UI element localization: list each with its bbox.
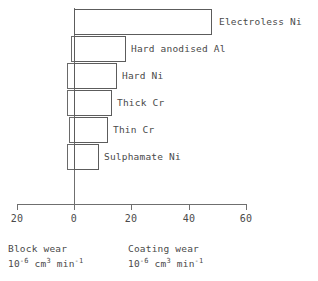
units-tail: min: [171, 258, 195, 269]
bar-label-5: Sulphamate Ni: [104, 152, 181, 162]
wear-comparison-chart: Electroless Ni Hard anodised Al Hard Ni …: [0, 0, 318, 281]
bar-coating-2: [74, 63, 117, 89]
caption-block-wear-title: Block wear: [8, 241, 83, 256]
units-base: 10: [8, 258, 20, 269]
bar-label-1: Hard anodised Al: [131, 44, 226, 54]
units-exp3: -1: [75, 257, 84, 265]
units-base: 10: [128, 258, 140, 269]
bar-label-2: Hard Ni: [122, 71, 163, 81]
caption-block-wear-units: 10-6 cm3 min-1: [8, 256, 83, 271]
axis-tick-label-0: 20: [2, 213, 32, 224]
caption-coating-wear-title: Coating wear: [128, 241, 203, 256]
axis-tick-label-3: 40: [174, 213, 204, 224]
axis-tick--20: [17, 204, 18, 210]
axis-tick-label-4: 60: [231, 213, 261, 224]
bar-coating-3: [74, 90, 112, 116]
bar-label-4: Thin Cr: [113, 125, 154, 135]
units-tail: min: [51, 258, 75, 269]
units-mid: cm: [149, 258, 167, 269]
bar-coating-0: [74, 9, 212, 35]
axis-tick-0: [74, 198, 75, 210]
bar-coating-4: [74, 117, 108, 143]
axis-tick-40: [189, 204, 190, 210]
caption-coating-wear: Coating wear 10-6 cm3 min-1: [128, 241, 203, 271]
caption-block-wear: Block wear 10-6 cm3 min-1: [8, 241, 83, 271]
units-exp3: -1: [195, 257, 204, 265]
caption-coating-wear-units: 10-6 cm3 min-1: [128, 256, 203, 271]
bar-label-0: Electroless Ni: [219, 17, 302, 27]
units-exp: -6: [140, 257, 149, 265]
axis-baseline: [17, 204, 247, 205]
plot-area: Electroless Ni Hard anodised Al Hard Ni …: [0, 0, 318, 200]
axis-tick-20: [131, 204, 132, 210]
bar-label-3: Thick Cr: [117, 98, 164, 108]
bar-coating-1: [74, 36, 126, 62]
units-mid: cm: [29, 258, 47, 269]
bar-coating-5: [74, 144, 99, 170]
axis-tick-60: [246, 204, 247, 210]
axis-tick-label-1: 0: [59, 213, 89, 224]
units-exp: -6: [20, 257, 29, 265]
axis-tick-label-2: 20: [116, 213, 146, 224]
